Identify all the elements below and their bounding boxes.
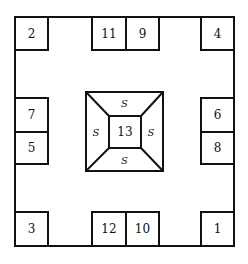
box-label: 3	[28, 222, 36, 236]
center-structure: 13 S S S S	[86, 92, 163, 171]
side-label-right: S	[148, 127, 155, 138]
box-label: 4	[214, 27, 222, 41]
box-label: 10	[135, 222, 150, 236]
box-label: 6	[214, 108, 222, 122]
side-label-left: S	[93, 127, 100, 138]
box-label: 7	[28, 108, 36, 122]
box-left-lower: 5	[15, 132, 48, 164]
box-left-upper: 7	[15, 98, 48, 132]
box-top-mid-right: 9	[126, 17, 159, 50]
box-right-upper: 6	[201, 98, 234, 132]
box-label: 2	[28, 27, 36, 41]
layout-diagram: 2 11 9 4 7 5 6 8 3 12 10	[0, 0, 248, 264]
box-label: 8	[214, 141, 222, 155]
box-bottom-right: 1	[201, 212, 234, 246]
center-label: 13	[117, 125, 132, 139]
box-label: 9	[139, 27, 147, 41]
box-right-lower: 8	[201, 132, 234, 164]
box-top-mid-left: 11	[92, 17, 126, 50]
box-label: 11	[101, 27, 116, 41]
side-label-bottom: S	[121, 155, 128, 166]
box-top-left: 2	[15, 17, 48, 50]
box-bottom-mid-right: 10	[126, 212, 159, 246]
box-top-right: 4	[201, 17, 234, 50]
box-label: 5	[28, 141, 36, 155]
box-label: 1	[214, 222, 222, 236]
side-label-top: S	[121, 98, 128, 109]
box-bottom-mid-left: 12	[92, 212, 126, 246]
box-label: 12	[101, 222, 116, 236]
box-bottom-left: 3	[15, 212, 48, 246]
